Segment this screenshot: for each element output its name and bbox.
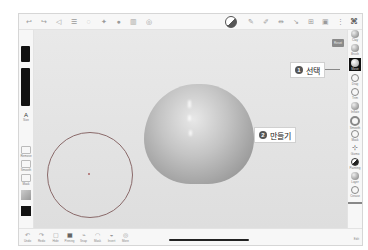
pinning-icon: ▦ [64,232,75,239]
intensity-slider[interactable] [21,68,30,106]
painting-icon [351,158,359,166]
tool-layer[interactable]: Layer [349,172,361,184]
light-icon[interactable]: ✦ [98,16,109,27]
move-icon [351,59,359,67]
smooth-icon [350,116,360,126]
redo-icon[interactable]: ↪ [38,16,49,27]
top-toolbar: ↩ ↪ ◁ ☰ ◌ ✦ ● ▥ ◎ ✎ ✐ ⇹ ↘ ⊞ ▣ ⋮ ⌘ [19,14,362,30]
scene-icon[interactable]: ◁ [53,16,64,27]
tool-brush[interactable]: Brush [349,44,361,56]
close-icon[interactable]: ⌘ [350,17,358,26]
tool-trim[interactable]: Trim [349,88,361,100]
symmetry-icon[interactable]: ⇹ [275,16,286,27]
bottom-undo[interactable]: ↶Undo [22,232,33,243]
sculpt-mesh[interactable] [144,84,254,184]
grid-icon[interactable]: ⊞ [305,16,316,27]
mask-icon [351,130,359,138]
material-swatch[interactable] [21,190,31,200]
tool-mask[interactable]: Mask [349,130,361,142]
edit-label[interactable]: Edit [354,237,359,241]
layer-icon [351,172,359,180]
brush-center-dot [88,173,90,175]
mesh-highlight [188,115,191,121]
bottom-mask[interactable]: ◠Mask [92,232,103,243]
callout-number-2: 2 [259,131,267,139]
left-panel: A Size Remove Smooth Mask [19,30,34,228]
undo-icon[interactable]: ↩ [23,16,34,27]
smooth-icon [21,160,31,168]
color-swatch[interactable] [21,206,31,216]
callout-select: 1 선택 [290,62,325,78]
inflate-icon [351,102,359,110]
gizmo-icon: ⊹ [349,144,361,152]
tool-painting[interactable]: Painting [349,158,361,170]
shading-icon[interactable] [225,16,237,28]
panel-divider [348,202,362,204]
viewport-canvas[interactable]: Reset [34,30,347,228]
tool-move[interactable]: Move [349,58,361,71]
callout-make: 2 만들기 [254,127,296,143]
layers-icon[interactable]: ▥ [128,16,139,27]
left-item-mask[interactable]: Mask [20,174,32,186]
app-window: ↩ ↪ ◁ ☰ ◌ ✦ ● ▥ ◎ ✎ ✐ ⇹ ↘ ⊞ ▣ ⋮ ⌘ A Size… [18,13,363,246]
left-item-remove[interactable]: Remove [20,146,32,158]
settings-icon[interactable]: ☰ [68,16,79,27]
left-item-size[interactable]: A Size [20,112,32,122]
trim-icon [351,88,359,96]
tool-gizmo[interactable]: ⊹Gizmo [349,144,361,156]
tool-smooth[interactable]: Smooth [349,116,361,130]
redo-icon: ↷ [36,232,47,239]
mesh-highlight [189,130,192,136]
vertex-icon[interactable]: ↘ [290,16,301,27]
drag-icon [351,74,359,82]
bottom-hide[interactable]: ▢Hide [50,232,61,243]
wireframe-icon[interactable]: ▣ [320,16,331,27]
bottom-snap[interactable]: ⌁Snap [78,232,89,243]
callout-text-1: 선택 [306,65,320,76]
left-item-smooth[interactable]: Smooth [20,160,32,172]
bottom-more[interactable]: ◎More [120,232,131,243]
home-indicator[interactable] [169,239,249,241]
tool-inflate[interactable]: Inflate [349,102,361,114]
hide-icon: ▢ [50,232,61,239]
more-icon: ◎ [120,232,131,239]
material-icon[interactable]: ◌ [83,16,94,27]
tool-crease[interactable]: Crease [349,186,361,198]
brush-radius-circle [47,132,133,218]
remove-icon [21,146,31,154]
callout-number-1: 1 [295,66,303,74]
invert-icon: ◒ [106,232,117,239]
crease-icon [351,186,359,194]
tool-clay[interactable]: Clay [349,30,361,42]
snap-icon: ⌁ [78,232,89,239]
undo-icon: ↶ [22,232,33,239]
callout-text-2: 만들기 [270,130,291,141]
mask-icon: ◠ [92,232,103,239]
mesh-highlight [188,100,191,108]
pen-alt-icon[interactable]: ✐ [260,16,271,27]
topology-icon[interactable]: ◎ [143,16,154,27]
bottom-redo[interactable]: ↷Redo [36,232,47,243]
clay-icon [351,30,359,38]
radius-slider[interactable] [21,46,30,62]
pen-icon[interactable]: ✎ [245,16,256,27]
camera-icon[interactable]: ● [113,16,124,27]
mask-icon [21,174,31,182]
more-icon[interactable]: ⋮ [335,16,346,27]
bottom-toolbar: ↶Undo ↷Redo ▢Hide ▦Pinning ⌁Snap ◠Mask ◒… [19,228,362,245]
tool-drag[interactable]: Drag [349,74,361,86]
reset-button[interactable]: Reset [332,39,344,47]
bottom-pinning[interactable]: ▦Pinning [64,232,75,243]
tool-panel: Clay Brush Move Drag Trim Inflate Smooth… [347,30,362,228]
brush-icon [351,44,359,52]
bottom-invert[interactable]: ◒Invert [106,232,117,243]
